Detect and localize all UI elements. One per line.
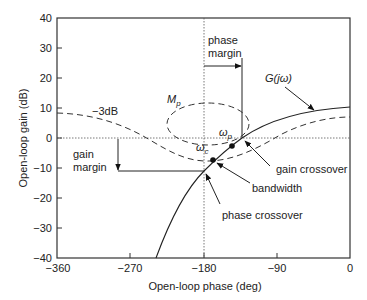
y-tick-label: 10 xyxy=(40,102,52,114)
y-tick-label: 0 xyxy=(46,132,52,144)
phase-margin-label-2: margin xyxy=(208,47,242,59)
x-axis-title: Open-loop phase (deg) xyxy=(148,280,261,292)
gain-crossover-arrow xyxy=(245,141,270,166)
y-tick-label: 20 xyxy=(40,72,52,84)
bandwidth-point xyxy=(210,157,216,163)
x-axis-ticks xyxy=(130,253,277,258)
mp-contour xyxy=(167,103,249,145)
omega-c-label: ωc xyxy=(196,141,209,156)
x-tick-label: −180 xyxy=(192,262,217,274)
nichols-chart: 40 30 20 10 0 −10 −20 −30 −40 −360 −270 … xyxy=(0,0,367,300)
x-tick-label: 0 xyxy=(347,262,353,274)
phase-crossover-label: phase crossover xyxy=(222,209,303,221)
gain-margin-label-2: margin xyxy=(73,161,107,173)
y-axis-title: Open-loop gain (dB) xyxy=(17,88,29,187)
minus-3db-contour xyxy=(57,113,350,161)
y-axis-labels: 40 30 20 10 0 −10 −20 −30 −40 xyxy=(33,12,52,264)
y-tick-label: 30 xyxy=(40,42,52,54)
gain-margin-label-1: gain xyxy=(73,148,94,160)
omega-p-label: ωp xyxy=(219,126,233,141)
y-tick-label: −30 xyxy=(33,222,52,234)
x-tick-label: −360 xyxy=(46,262,71,274)
bandwidth-arrow xyxy=(217,163,250,183)
mp-label: Mp xyxy=(167,93,181,108)
x-tick-label: −90 xyxy=(268,262,287,274)
y-tick-label: −20 xyxy=(33,192,52,204)
bandwidth-label: bandwidth xyxy=(252,182,302,194)
y-tick-label: −10 xyxy=(33,162,52,174)
x-axis-labels: −360 −270 −180 −90 0 xyxy=(46,262,353,274)
phase-margin-label-1: phase xyxy=(208,34,238,46)
y-tick-label: 40 xyxy=(40,12,52,24)
omega-p-point xyxy=(229,143,235,149)
gain-crossover-label: gain crossover xyxy=(276,163,348,175)
g-jw-arrow xyxy=(285,87,314,110)
phase-crossover-arrow xyxy=(206,174,220,204)
minus-3db-label: −3dB xyxy=(92,105,118,117)
x-tick-label: −270 xyxy=(118,262,143,274)
g-jw-label: G(jω) xyxy=(265,72,292,84)
